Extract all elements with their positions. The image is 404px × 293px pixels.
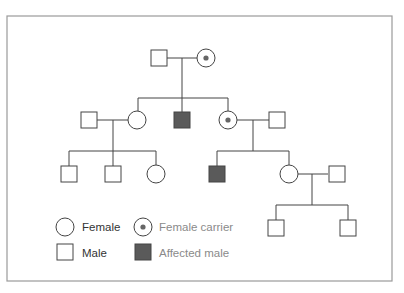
gen3-male-1 xyxy=(61,166,77,182)
gen3-male-spouse xyxy=(329,166,345,182)
gen1-male xyxy=(151,50,167,66)
legend-female-icon xyxy=(56,218,74,236)
gen4-male-1 xyxy=(268,220,284,236)
legend-female-carrier-label: Female carrier xyxy=(159,220,233,234)
gen1-female-carrier xyxy=(197,49,215,67)
gen2-female-carrier xyxy=(219,111,237,129)
gen2-male-spouse-left xyxy=(81,112,97,128)
gen2-female xyxy=(128,111,146,129)
gen3-female-1 xyxy=(147,165,165,183)
legend-female-label: Female xyxy=(82,220,120,234)
legend-male-icon xyxy=(57,244,73,260)
gen2-male-spouse-right xyxy=(269,112,285,128)
gen3-female-2 xyxy=(280,165,298,183)
gen3-affected-male xyxy=(209,166,225,182)
gen3-male-2 xyxy=(105,166,121,182)
legend-affected-male-label: Affected male xyxy=(159,246,229,260)
legend-affected-male-icon xyxy=(135,244,151,260)
gen2-affected-male xyxy=(174,112,190,128)
legend-female-carrier-icon xyxy=(134,218,152,236)
gen4-male-2 xyxy=(340,220,356,236)
legend-male-label: Male xyxy=(82,246,107,260)
connector-lines xyxy=(69,58,348,220)
